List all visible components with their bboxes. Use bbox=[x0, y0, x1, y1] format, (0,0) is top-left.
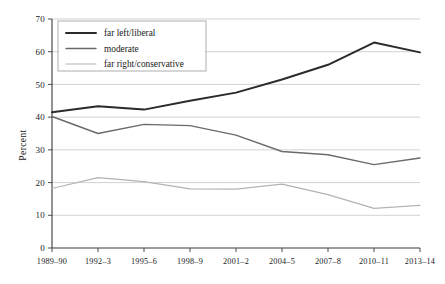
y-tick-label: 10 bbox=[35, 210, 45, 220]
y-tick-label: 70 bbox=[35, 14, 45, 24]
y-tick-label: 20 bbox=[35, 178, 45, 188]
line-chart: 010203040506070 1989–901992–31995–61998–… bbox=[0, 0, 445, 284]
y-axis-ticks-group: 010203040506070 bbox=[35, 14, 52, 253]
x-tick-label: 2010–11 bbox=[359, 257, 389, 266]
x-tick-label: 2001–2 bbox=[223, 257, 249, 266]
y-tick-label: 50 bbox=[35, 80, 45, 90]
x-tick-label: 1995–6 bbox=[131, 257, 157, 266]
x-tick-label: 1989–90 bbox=[37, 257, 67, 266]
y-axis-label: Percent bbox=[18, 129, 28, 160]
legend-label: far left/liberal bbox=[104, 28, 156, 38]
x-tick-label: 2007–8 bbox=[315, 257, 341, 266]
y-tick-label: 40 bbox=[35, 112, 45, 122]
chart-figure: 010203040506070 1989–901992–31995–61998–… bbox=[0, 0, 445, 284]
x-axis-ticks-group: 1989–901992–31995–61998–92001–22004–5200… bbox=[37, 248, 435, 266]
legend-label: far right/conservative bbox=[104, 59, 184, 69]
x-tick-label: 2013–14 bbox=[405, 257, 435, 266]
chart-legend: far left/liberalmoderatefar right/conser… bbox=[58, 21, 206, 71]
x-tick-label: 1998–9 bbox=[177, 257, 203, 266]
y-tick-label: 60 bbox=[35, 47, 45, 57]
y-tick-label: 0 bbox=[40, 243, 45, 253]
y-tick-label: 30 bbox=[35, 145, 45, 155]
x-tick-label: 2004–5 bbox=[269, 257, 295, 266]
x-tick-label: 1992–3 bbox=[85, 257, 111, 266]
series-line-moderate bbox=[52, 116, 420, 164]
legend-label: moderate bbox=[104, 44, 139, 54]
